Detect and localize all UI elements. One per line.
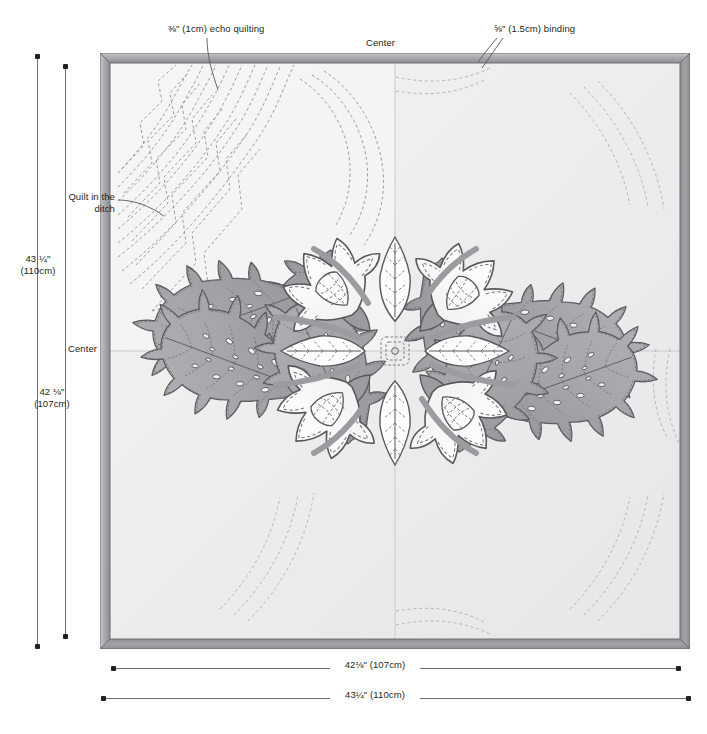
dimension-label-bottom-inner: 42⅛" (107cm) bbox=[330, 659, 420, 671]
dim-dot-bottom-outer-left bbox=[101, 696, 106, 701]
dimension-line-left-outer bbox=[37, 56, 38, 647]
dim-dot-bottom-inner-left bbox=[111, 666, 116, 671]
dim-dot-bottom-inner-right bbox=[676, 666, 681, 671]
dimension-line-left-inner bbox=[65, 66, 66, 637]
quilt-illustration bbox=[100, 53, 690, 649]
dim-dot-left-inner-top bbox=[63, 64, 68, 69]
dim-dot-left-inner-bottom bbox=[63, 634, 68, 639]
dimension-label-left-inner-cm: (107cm) bbox=[26, 398, 78, 410]
label-center-left: Center bbox=[68, 343, 97, 355]
label-center-top: Center bbox=[366, 37, 395, 49]
dim-dot-bottom-outer-right bbox=[686, 696, 691, 701]
label-binding: ⅝" (1.5cm) binding bbox=[494, 23, 575, 35]
label-quilt-in-the-ditch: Quilt in the ditch bbox=[63, 191, 115, 214]
diagram-page: ⅜" (1cm) echo quilting ⅝" (1.5cm) bindin… bbox=[0, 0, 707, 734]
dimension-label-left-outer-inches: 43 ¼" bbox=[12, 253, 64, 265]
quilt-svg bbox=[100, 53, 690, 649]
dimension-label-left-outer-cm: (110cm) bbox=[12, 265, 64, 277]
dimension-label-bottom-outer: 43¼" (110cm) bbox=[330, 689, 420, 701]
dim-dot-left-outer-top bbox=[35, 54, 40, 59]
dimension-label-left-outer: 43 ¼" (110cm) bbox=[12, 253, 64, 276]
dimension-label-left-inner: 42 ⅛" (107cm) bbox=[26, 386, 78, 409]
dim-dot-left-outer-bottom bbox=[35, 644, 40, 649]
label-echo-quilting: ⅜" (1cm) echo quilting bbox=[168, 23, 264, 35]
dimension-label-left-inner-inches: 42 ⅛" bbox=[26, 386, 78, 398]
